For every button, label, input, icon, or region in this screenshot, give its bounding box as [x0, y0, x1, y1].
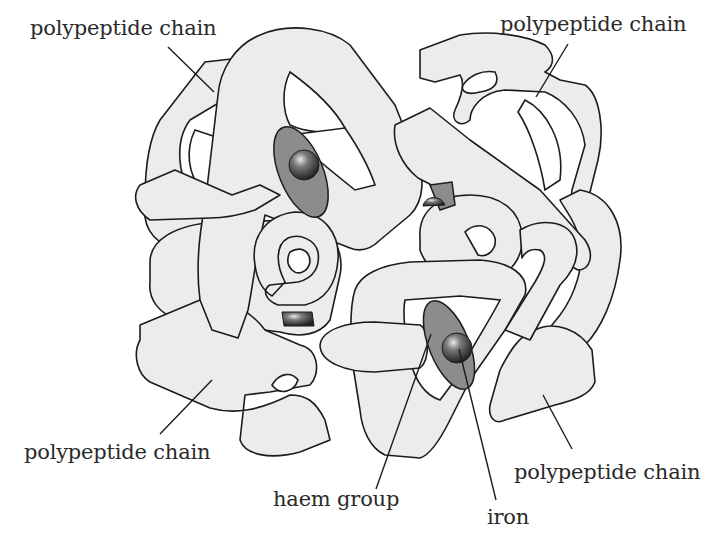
- label-polypeptide-chain-bottom-right: polypeptide chain: [514, 462, 700, 483]
- label-polypeptide-chain-bottom-left: polypeptide chain: [24, 442, 210, 463]
- polypeptide-chain-s-loop-left: [254, 212, 338, 305]
- iron-atom-icon: [289, 150, 319, 180]
- haemoglobin-diagram: polypeptide chain polypeptide chain poly…: [0, 0, 725, 541]
- label-haem-group: haem group: [273, 489, 399, 510]
- haem-group-bottom-left-hidden: [282, 312, 314, 326]
- label-iron: iron: [487, 507, 529, 528]
- label-polypeptide-chain-top-left: polypeptide chain: [30, 18, 216, 39]
- haem-group-top-right-hidden: [423, 182, 455, 210]
- label-polypeptide-chain-top-right: polypeptide chain: [500, 14, 686, 35]
- polypeptide-chain-lozenge: [320, 322, 428, 372]
- iron-atom-icon: [442, 333, 472, 363]
- leader-iron: [459, 349, 496, 500]
- polypeptide-chain-bottom-right: [490, 326, 595, 422]
